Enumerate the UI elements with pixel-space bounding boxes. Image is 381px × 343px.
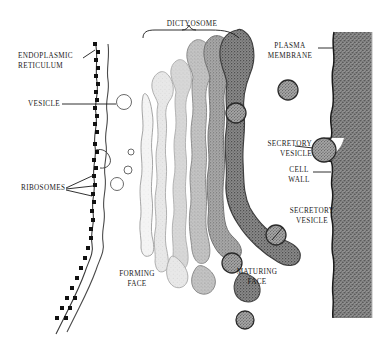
secretory-vesicle: [278, 80, 298, 100]
label-secretory-vesicle-lower: SECRETORY VESICLE: [282, 207, 342, 226]
label-maturing-face: MATURING FACE: [228, 268, 286, 287]
cisterna-2: [152, 72, 173, 272]
vesicle-labeled: [117, 95, 132, 110]
label-cell-wall: CELL WALL: [284, 166, 314, 185]
plasma-membrane-line: [318, 32, 334, 318]
label-endoplasmic-reticulum: ENDOPLASMIC RETICULUM: [18, 52, 73, 71]
label-ribosomes: RIBOSOMES: [21, 184, 65, 194]
label-plasma-membrane: PLASMA MEMBRANE: [262, 42, 318, 61]
cisterna-3: [171, 60, 192, 270]
dictyosome-diagram: ENDOPLASMIC RETICULUM VESICLE RIBOSOMES …: [0, 0, 381, 343]
cisterna-1: [140, 94, 154, 257]
secretory-vesicle: [236, 311, 254, 329]
label-vesicle: VESICLE: [28, 100, 60, 110]
secretory-vesicle: [226, 103, 246, 123]
leader-ribosome-c: [66, 190, 92, 196]
budding-vesicle-mid: [192, 266, 216, 295]
transition-vesicles: [111, 95, 135, 191]
cell-wall: [318, 32, 372, 318]
leader-er: [83, 50, 95, 58]
label-forming-face: FORMING FACE: [108, 270, 166, 289]
label-dictyosome: DICTYOSOME: [152, 20, 232, 30]
dictyosome: [140, 29, 301, 302]
label-secretory-vesicle-upper: SECRETORY VESICLE: [238, 140, 312, 159]
secretory-vesicle-fusing: [312, 138, 336, 162]
